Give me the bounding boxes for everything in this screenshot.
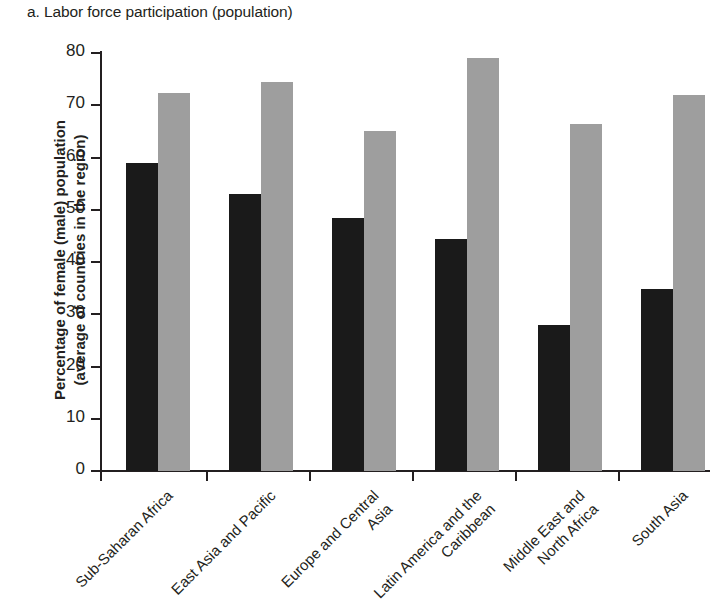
x-axis-tick	[206, 470, 208, 481]
x-axis-category-label: Europe and CentralAsia	[86, 486, 396, 616]
x-axis-tick	[309, 470, 311, 481]
y-axis-tick: 70	[91, 104, 100, 106]
x-axis-tick	[515, 470, 517, 481]
bar-group	[435, 53, 499, 471]
bar	[126, 163, 158, 471]
y-axis-tick-label: 80	[66, 41, 85, 61]
y-axis-tick: 60	[91, 157, 100, 159]
y-axis-tick: 40	[91, 261, 100, 263]
y-axis-tick: 80	[91, 52, 100, 54]
bar-group	[538, 53, 602, 471]
y-axis-tick-label: 0	[76, 459, 85, 479]
plot-area: 01020304050607080	[100, 53, 710, 471]
bar	[673, 95, 705, 471]
bar	[364, 131, 396, 471]
y-axis-tick: 20	[91, 366, 100, 368]
bar	[538, 325, 570, 471]
x-axis-category-label-line: East Asia and Pacific	[0, 486, 279, 616]
bar-group	[641, 53, 705, 471]
bar	[641, 289, 673, 471]
x-axis-category-label: Sub-Saharan Africa	[0, 486, 176, 616]
y-axis-tick-label: 30	[66, 302, 85, 322]
bar-group	[126, 53, 190, 471]
bar	[467, 58, 499, 471]
y-axis-tick-label: 20	[66, 355, 85, 375]
x-axis-tick	[412, 470, 414, 481]
x-axis-category-label-line: Sub-Saharan Africa	[0, 486, 176, 616]
y-axis-tick-label: 50	[66, 198, 85, 218]
y-axis-tick: 30	[91, 313, 100, 315]
x-axis-tick	[100, 470, 102, 481]
x-axis-tick	[618, 470, 620, 481]
bar	[435, 239, 467, 472]
bar	[332, 218, 364, 471]
bar	[158, 93, 190, 471]
y-axis-tick: 0	[91, 470, 100, 472]
y-axis-tick-label: 60	[66, 146, 85, 166]
bar	[229, 194, 261, 471]
x-axis-category-label: East Asia and Pacific	[0, 486, 279, 616]
bar-group	[332, 53, 396, 471]
page-title: a. Labor force participation (population…	[27, 3, 293, 21]
bar	[261, 82, 293, 471]
bar	[570, 124, 602, 471]
y-axis-tick-label: 40	[66, 250, 85, 270]
bar-group	[229, 53, 293, 471]
y-axis-tick-label: 10	[66, 407, 85, 427]
y-axis-tick: 50	[91, 209, 100, 211]
y-axis-tick: 10	[91, 418, 100, 420]
y-axis-tick-label: 70	[66, 93, 85, 113]
